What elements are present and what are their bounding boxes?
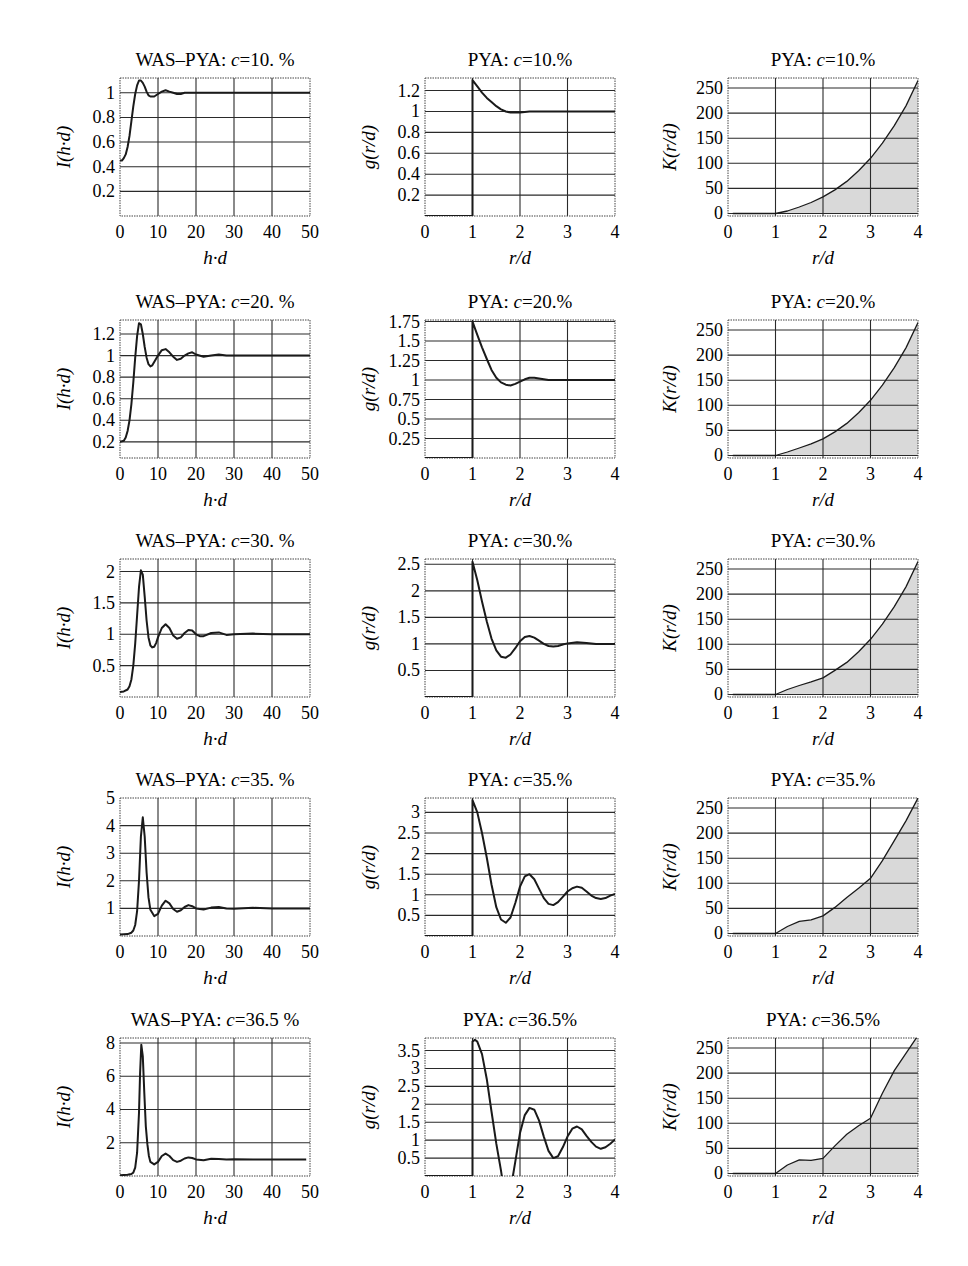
y-tick-label: 4 <box>106 1099 115 1119</box>
x-tick-label: 2 <box>819 1182 828 1202</box>
y-tick-label: 2 <box>106 1133 115 1153</box>
chart-title: PYA: c=20.% <box>468 291 573 312</box>
y-tick-label: 250 <box>696 320 723 340</box>
y-tick-label: 3 <box>411 1058 420 1078</box>
y-axis-label: K(r/d) <box>659 1083 681 1132</box>
area-fill <box>733 562 918 695</box>
plot-frame <box>120 320 310 458</box>
x-tick-label: 3 <box>866 222 875 242</box>
y-tick-label: 50 <box>705 420 723 440</box>
x-tick-label: 0 <box>116 703 125 723</box>
chart-svg: WAS–PYA: c=36.5 %010203040502468h·dI(h·d… <box>20 1000 320 1230</box>
panel-pair-correlation-c10: PYA: c=10.%012340.20.40.60.811.2r/dg(r/d… <box>325 40 625 274</box>
x-tick-label: 20 <box>187 222 205 242</box>
y-tick-label: 8 <box>106 1033 115 1053</box>
x-axis-label: h·d <box>203 967 227 988</box>
x-tick-label: 3 <box>563 222 572 242</box>
gridlines <box>425 78 615 216</box>
y-tick-label: 1 <box>106 346 115 366</box>
y-axis-label: I(h·d) <box>53 126 75 170</box>
x-tick-label: 3 <box>866 942 875 962</box>
x-tick-label: 3 <box>866 1182 875 1202</box>
y-tick-label: 1.2 <box>398 81 421 101</box>
y-tick-label: 100 <box>696 1113 723 1133</box>
y-tick-label: 250 <box>696 798 723 818</box>
panel-intensity-c20: WAS–PYA: c=20. %010203040500.20.40.60.81… <box>20 282 320 516</box>
y-tick-label: 250 <box>696 559 723 579</box>
gridlines <box>120 559 310 697</box>
y-tick-label: 1.5 <box>398 607 421 627</box>
y-tick-label: 0 <box>714 203 723 223</box>
x-tick-label: 4 <box>611 222 620 242</box>
y-axis-label: K(r/d) <box>659 123 681 172</box>
y-tick-label: 1 <box>106 624 115 644</box>
chart-svg: PYA: c=36.5%01234050100150200250r/dK(r/d… <box>628 1000 928 1230</box>
y-tick-label: 50 <box>705 898 723 918</box>
y-tick-label: 200 <box>696 823 723 843</box>
x-tick-label: 1 <box>771 1182 780 1202</box>
y-tick-label: 0.6 <box>93 389 116 409</box>
y-tick-label: 1 <box>411 101 420 121</box>
chart-svg: PYA: c=30.%01234050100150200250r/dK(r/d) <box>628 521 928 751</box>
chart-svg: PYA: c=36.5%012340.511.522.533.5r/dg(r/d… <box>325 1000 625 1230</box>
x-tick-label: 0 <box>724 464 733 484</box>
x-tick-label: 2 <box>516 222 525 242</box>
x-axis-label: h·d <box>203 728 227 749</box>
y-axis-label: I(h·d) <box>53 1086 75 1130</box>
x-tick-label: 30 <box>225 942 243 962</box>
y-axis-label: g(r/d) <box>358 125 380 169</box>
x-tick-label: 20 <box>187 703 205 723</box>
y-tick-label: 2 <box>106 562 115 582</box>
chart-title: WAS–PYA: c=36.5 % <box>131 1009 300 1030</box>
y-tick-label: 1.5 <box>398 331 421 351</box>
x-axis-label: r/d <box>509 1207 532 1228</box>
panel-intensity-c36-5: WAS–PYA: c=36.5 %010203040502468h·dI(h·d… <box>20 1000 320 1234</box>
y-tick-label: 0.5 <box>398 660 421 680</box>
panel-pair-correlation-c35: PYA: c=35.%012340.511.522.53r/dg(r/d) <box>325 760 625 994</box>
gridlines <box>120 78 310 216</box>
x-tick-label: 3 <box>563 703 572 723</box>
y-tick-label: 0.6 <box>93 132 116 152</box>
y-axis-label: K(r/d) <box>659 365 681 414</box>
x-axis-label: r/d <box>509 489 532 510</box>
x-axis-label: r/d <box>509 967 532 988</box>
chart-title: PYA: c=36.5% <box>766 1009 880 1030</box>
x-tick-label: 2 <box>516 942 525 962</box>
y-tick-label: 0 <box>714 923 723 943</box>
y-tick-label: 100 <box>696 395 723 415</box>
y-tick-label: 0.6 <box>398 143 421 163</box>
gridlines <box>120 798 310 936</box>
x-tick-label: 10 <box>149 703 167 723</box>
chart-svg: PYA: c=20.%012340.250.50.7511.251.51.75r… <box>325 282 625 512</box>
chart-svg: WAS–PYA: c=35. %0102030405012345h·dI(h·d… <box>20 760 320 990</box>
x-tick-label: 1 <box>771 464 780 484</box>
panel-k-function-c35: PYA: c=35.%01234050100150200250r/dK(r/d) <box>628 760 928 994</box>
x-axis-label: r/d <box>812 728 835 749</box>
y-tick-label: 0.5 <box>398 905 421 925</box>
plot-frame <box>120 78 310 216</box>
x-tick-label: 1 <box>468 222 477 242</box>
x-tick-label: 20 <box>187 942 205 962</box>
y-tick-label: 1.5 <box>93 593 116 613</box>
y-tick-label: 150 <box>696 848 723 868</box>
chart-title: PYA: c=35.% <box>468 769 573 790</box>
x-tick-label: 0 <box>116 942 125 962</box>
x-tick-label: 40 <box>263 942 281 962</box>
x-tick-label: 3 <box>563 942 572 962</box>
y-tick-label: 1 <box>411 370 420 390</box>
x-tick-label: 1 <box>771 703 780 723</box>
chart-svg: WAS–PYA: c=10. %010203040500.20.40.60.81… <box>20 40 320 270</box>
y-tick-label: 0 <box>714 1163 723 1183</box>
y-tick-label: 200 <box>696 345 723 365</box>
x-tick-label: 0 <box>421 1182 430 1202</box>
x-tick-label: 50 <box>301 464 319 484</box>
y-tick-label: 1.75 <box>389 312 421 332</box>
x-tick-label: 3 <box>866 464 875 484</box>
y-axis-label: K(r/d) <box>659 604 681 653</box>
chart-title: PYA: c=35.% <box>771 769 876 790</box>
y-axis-label: I(h·d) <box>53 846 75 890</box>
chart-title: WAS–PYA: c=35. % <box>135 769 294 790</box>
x-tick-label: 40 <box>263 1182 281 1202</box>
y-tick-label: 50 <box>705 178 723 198</box>
x-tick-label: 30 <box>225 703 243 723</box>
